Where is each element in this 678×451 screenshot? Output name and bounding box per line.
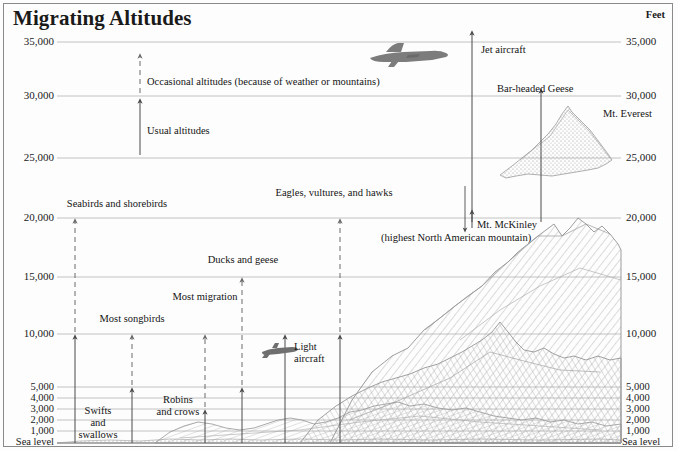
jet-airliner-icon (370, 43, 448, 67)
tick-right-2000: 2,000 (626, 414, 650, 425)
tick-right-10000: 10,000 (626, 327, 656, 339)
migrating-altitudes-infographic: Migrating Altitudes Feet (0, 0, 678, 451)
label-mt-everest: Mt. Everest (603, 108, 652, 120)
label-bar-headed-geese: Bar-headed Geese (497, 83, 573, 95)
tick-left-20000: 20,000 (6, 211, 54, 223)
chart-canvas (0, 0, 678, 451)
tick-right-15000: 15,000 (626, 270, 656, 282)
label-swifts-and-swallows-line3: swallows (78, 429, 117, 441)
tick-left-30000: 30,000 (6, 89, 54, 101)
label-robins-and-crows-line2: and crows (157, 406, 200, 418)
tick-left-5000: 5,000 (6, 381, 54, 392)
tick-left-35000: 35,000 (6, 35, 54, 47)
label-mt-mckinley-subtitle: (highest North American mountain) (381, 232, 531, 244)
label-light-aircraft-line1: Light (294, 341, 317, 353)
tick-left-sea-level: Sea level (0, 436, 54, 447)
label-ducks-and-geese: Ducks and geese (208, 254, 279, 266)
tick-right-35000: 35,000 (626, 35, 656, 47)
tick-left-3000: 3,000 (6, 403, 54, 414)
tick-right-1000: 1,000 (626, 425, 650, 436)
label-most-songbirds: Most songbirds (99, 313, 164, 325)
tick-right-30000: 30,000 (626, 89, 656, 101)
label-jet-aircraft: Jet aircraft (481, 44, 526, 56)
label-robins-and-crows-line1: Robins (163, 394, 193, 406)
label-most-migration: Most migration (172, 291, 237, 303)
label-eagles-vultures-and-hawks: Eagles, vultures, and hawks (276, 187, 393, 199)
mt-everest-silhouette (500, 106, 612, 178)
tick-left-4000: 4,000 (6, 392, 54, 403)
legend-label-usual-altitudes: Usual altitudes (147, 125, 210, 137)
label-light-aircraft-line2: aircraft (294, 353, 324, 365)
tick-right-sea-level: Sea level (622, 436, 660, 447)
light-aircraft-icon (262, 343, 298, 358)
label-seabirds-and-shorebirds: Seabirds and shorebirds (67, 198, 167, 210)
label-swifts-and-swallows-line1: Swifts (85, 405, 112, 417)
tick-left-25000: 25,000 (6, 151, 54, 163)
label-swifts-and-swallows-line2: and (90, 417, 105, 429)
tick-left-1000: 1,000 (6, 425, 54, 436)
tick-left-15000: 15,000 (6, 270, 54, 282)
legend-label-occasional-altitudes: Occasional altitudes (because of weather… (147, 76, 380, 88)
tick-right-3000: 3,000 (626, 403, 650, 414)
tick-left-2000: 2,000 (6, 414, 54, 425)
tick-right-25000: 25,000 (626, 151, 656, 163)
tick-left-10000: 10,000 (6, 327, 54, 339)
tick-right-5000: 5,000 (626, 381, 650, 392)
tick-right-20000: 20,000 (626, 211, 656, 223)
label-mt-mckinley: Mt. McKinley (477, 219, 537, 231)
tick-right-4000: 4,000 (626, 392, 650, 403)
